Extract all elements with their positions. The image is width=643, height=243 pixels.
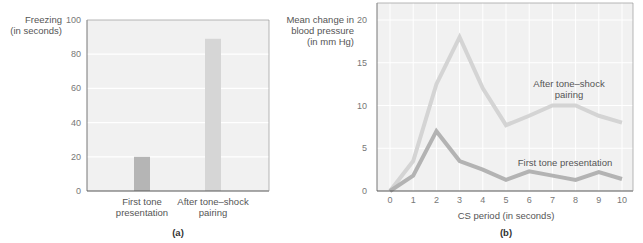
x-tick-label: 1	[411, 195, 416, 205]
y-tick-label: 0	[362, 186, 367, 196]
series-label-first-tone: First tone presentation	[518, 157, 613, 168]
x-category-label: First tonepresentation	[116, 196, 168, 218]
y-tick-label: 20	[357, 15, 367, 25]
y-tick-label: 5	[362, 143, 367, 153]
plot-area	[87, 20, 269, 191]
x-tick-label: 8	[573, 195, 578, 205]
y-tick-label: 15	[357, 58, 367, 68]
x-tick-label: 7	[550, 195, 555, 205]
x-axis-label: CS period (in seconds)	[458, 210, 555, 221]
bar	[134, 157, 150, 191]
y-axis-label: Freezing(in seconds)	[10, 14, 62, 36]
y-axis-label: Mean change inblood pressure(in mm Hg)	[286, 14, 354, 47]
x-tick-label: 5	[503, 195, 508, 205]
x-tick-label: 4	[480, 195, 485, 205]
y-tick-label: 40	[71, 118, 81, 128]
y-tick-label: 10	[357, 101, 367, 111]
y-tick-label: 20	[71, 152, 81, 162]
x-tick-label: 9	[596, 195, 601, 205]
line-chart-blood-pressure: 05101520 012345678910 After tone–shockpa…	[286, 3, 633, 238]
y-tick-label: 80	[71, 49, 81, 59]
x-tick-label: 0	[387, 195, 392, 205]
panel-caption: (a)	[172, 227, 184, 238]
x-tick-label: 2	[434, 195, 439, 205]
x-tick-label: 6	[527, 195, 532, 205]
figure: 020406080100 First tonepresentationAfter…	[0, 0, 643, 243]
x-tick-label: 10	[617, 195, 627, 205]
y-tick-label: 60	[71, 83, 81, 93]
bar-chart-freezing: 020406080100 First tonepresentationAfter…	[10, 14, 269, 238]
panel-caption: (b)	[500, 227, 512, 238]
x-tick-label: 3	[457, 195, 462, 205]
bar	[205, 39, 221, 191]
x-category-label: After tone–shockpairing	[177, 196, 249, 218]
y-tick-label: 100	[66, 15, 81, 25]
y-tick-label: 0	[76, 186, 81, 196]
